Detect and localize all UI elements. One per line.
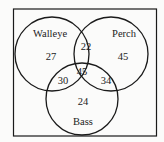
bass-label: Bass — [73, 117, 93, 128]
venn-diagram: Walleye Perch Bass 27 45 24 22 30 34 45 — [0, 0, 164, 142]
region-perch-bass: 34 — [101, 76, 112, 87]
region-perch-only: 45 — [118, 52, 129, 63]
region-walleye-perch: 22 — [81, 42, 92, 53]
region-walleye-bass: 30 — [58, 76, 69, 87]
region-bass-only: 24 — [78, 97, 89, 108]
walleye-label: Walleye — [33, 29, 67, 40]
perch-label: Perch — [112, 29, 136, 40]
region-all-three: 45 — [77, 67, 88, 78]
region-walleye-only: 27 — [46, 52, 57, 63]
